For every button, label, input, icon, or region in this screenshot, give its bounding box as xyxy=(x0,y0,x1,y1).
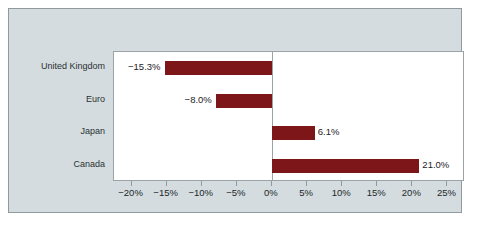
x-axis-tick-label: −15% xyxy=(153,187,178,198)
x-axis-tick-label: −10% xyxy=(188,187,213,198)
x-axis-tick xyxy=(411,181,412,186)
plot-area xyxy=(113,51,464,181)
x-axis-tick-label: 15% xyxy=(367,187,386,198)
y-axis-label: Japan xyxy=(9,126,105,136)
x-axis-tick-label: 5% xyxy=(299,187,313,198)
bar xyxy=(216,94,272,108)
x-axis-tick xyxy=(131,181,132,186)
bar-value-label: −15.3% xyxy=(9,61,161,72)
x-axis-tick-label: −20% xyxy=(118,187,143,198)
figure-root: United KingdomEuroJapanCanada −15.3%−8.0… xyxy=(0,0,478,228)
bar xyxy=(272,159,419,173)
x-axis-tick-label: 20% xyxy=(402,187,421,198)
bar-value-label: 6.1% xyxy=(318,126,340,137)
bar-value-label: −8.0% xyxy=(9,94,212,105)
x-axis-tick-label: −5% xyxy=(226,187,245,198)
x-axis-tick xyxy=(166,181,167,186)
bar xyxy=(165,61,272,75)
x-axis-tick xyxy=(201,181,202,186)
chart-panel: United KingdomEuroJapanCanada −15.3%−8.0… xyxy=(8,8,462,213)
bar-value-label: 21.0% xyxy=(422,159,449,170)
x-axis-tick xyxy=(341,181,342,186)
x-axis-tick xyxy=(271,181,272,186)
x-axis-tick xyxy=(376,181,377,186)
bar xyxy=(272,126,315,140)
x-axis-tick-label: 10% xyxy=(332,187,351,198)
x-axis-tick xyxy=(306,181,307,186)
x-axis-tick xyxy=(446,181,447,186)
x-axis-tick xyxy=(236,181,237,186)
x-axis-tick-label: 0% xyxy=(264,187,278,198)
y-axis-label: Canada xyxy=(9,159,105,169)
x-axis-tick-label: 25% xyxy=(437,187,456,198)
